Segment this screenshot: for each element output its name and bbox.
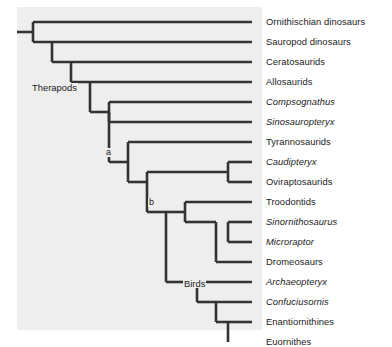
tip-label-dromeosaurs: Dromeosaurs [266, 257, 323, 266]
tip-label-enantiornithines: Enantiornithines [266, 317, 334, 326]
tip-label-euornithes: Euornithes [266, 337, 311, 346]
tip-label-troodontids: Troodontids [266, 197, 316, 206]
node-label-birds: Birds [183, 279, 206, 288]
tip-label-compsognathus: Compsognathus [266, 97, 335, 106]
node-label-b: b [148, 198, 155, 207]
tip-label-caudipteryx: Caudipteryx [266, 157, 317, 166]
tip-label-archaeopteryx: Archaeopteryx [266, 277, 327, 286]
tip-label-allosaurids: Allosaurids [266, 77, 312, 86]
tip-label-ornithischian-dinosaurs: Ornithischian dinosaurs [266, 17, 365, 26]
tip-label-sinosauropteryx: Sinosauropteryx [266, 117, 335, 126]
node-label-therapods: Therapods [31, 83, 78, 92]
tip-label-sinornithosaurus: Sinornithosaurus [266, 217, 337, 226]
node-label-a: a [105, 148, 112, 157]
tip-label-sauropod-dinosaurs: Sauropod dinosaurs [266, 37, 351, 46]
tip-label-oviraptosaurids: Oviraptosaurids [266, 177, 332, 186]
tip-label-tyrannosaurids: Tyrannosaurids [266, 137, 331, 146]
tip-label-confuciusornis: Confuciusornis [266, 297, 329, 306]
tip-label-ceratosaurids: Ceratosaurids [266, 57, 325, 66]
tip-label-microraptor: Microraptor [266, 237, 314, 246]
